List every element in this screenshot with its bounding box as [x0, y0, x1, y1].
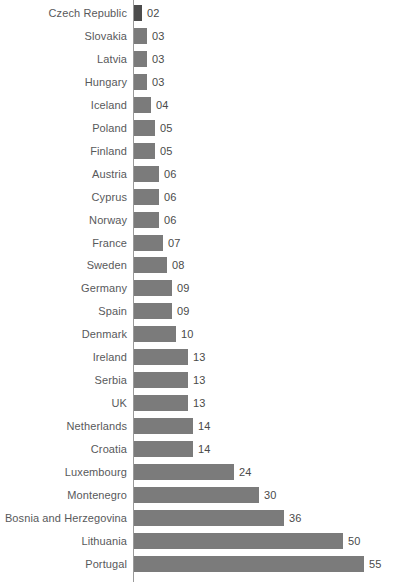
value-label: 06 [164, 190, 177, 203]
value-label: 06 [164, 213, 177, 226]
bar-row: Sweden08 [0, 257, 393, 273]
value-label: 03 [152, 75, 165, 88]
bar [134, 189, 159, 205]
bar [134, 303, 172, 319]
bar-row: Czech Republic02 [0, 5, 393, 21]
bar [134, 97, 151, 113]
category-label: Iceland [91, 98, 127, 111]
category-label: Latvia [97, 52, 127, 65]
bar [134, 5, 142, 21]
bar-row: Slovakia03 [0, 28, 393, 44]
category-label: Spain [98, 305, 127, 318]
category-label: Poland [92, 121, 127, 134]
bar-row: Spain09 [0, 303, 393, 319]
value-label: 02 [147, 7, 160, 20]
bar-row: Croatia14 [0, 441, 393, 457]
category-label: Sweden [87, 259, 127, 272]
category-label: Portugal [85, 557, 127, 570]
category-label: Serbia [95, 374, 127, 387]
category-label: Netherlands [67, 420, 127, 433]
category-label: Denmark [82, 328, 127, 341]
value-label: 13 [193, 351, 206, 364]
bar [134, 74, 147, 90]
bar-row: Netherlands14 [0, 418, 393, 434]
bar-row: Germany09 [0, 280, 393, 296]
category-label: France [92, 236, 127, 249]
value-label: 13 [193, 397, 206, 410]
bar-row: Serbia13 [0, 372, 393, 388]
category-label: Finland [90, 144, 127, 157]
bar-rows: Czech Republic02Slovakia03Latvia03Hungar… [0, 0, 393, 582]
bar-row: UK13 [0, 395, 393, 411]
value-label: 07 [168, 236, 181, 249]
value-label: 08 [172, 259, 185, 272]
bar [134, 556, 364, 572]
value-label: 36 [289, 511, 302, 524]
bar-row: Finland05 [0, 143, 393, 159]
bar [134, 464, 234, 480]
value-label: 05 [160, 121, 173, 134]
category-label: Austria [92, 167, 127, 180]
category-label: Czech Republic [49, 7, 127, 20]
category-label: Slovakia [85, 29, 127, 42]
bar-row: Ireland13 [0, 349, 393, 365]
value-label: 24 [239, 466, 252, 479]
bar [134, 395, 188, 411]
bar [134, 533, 343, 549]
value-label: 14 [198, 443, 211, 456]
value-label: 13 [193, 374, 206, 387]
bar [134, 349, 188, 365]
value-label: 09 [177, 282, 190, 295]
bar [134, 326, 176, 342]
bar-row: Luxembourg24 [0, 464, 393, 480]
category-label: Bosnia and Herzegovina [5, 511, 127, 524]
value-label: 05 [160, 144, 173, 157]
value-label: 14 [198, 420, 211, 433]
bar-row: France07 [0, 235, 393, 251]
bar [134, 28, 147, 44]
bar-row: Poland05 [0, 120, 393, 136]
bar [134, 487, 259, 503]
value-label: 06 [164, 167, 177, 180]
bar [134, 51, 147, 67]
bar [134, 143, 155, 159]
bar [134, 235, 163, 251]
category-label: Luxembourg [65, 466, 127, 479]
value-label: 55 [369, 557, 382, 570]
bar-row: Norway06 [0, 212, 393, 228]
category-label: Cyprus [92, 190, 127, 203]
bar [134, 280, 172, 296]
bar-row: Iceland04 [0, 97, 393, 113]
bar-row: Austria06 [0, 166, 393, 182]
bar-row: Denmark10 [0, 326, 393, 342]
bar-chart: Czech Republic02Slovakia03Latvia03Hungar… [0, 0, 393, 582]
bar-row: Portugal55 [0, 556, 393, 572]
bar [134, 372, 188, 388]
bar-row: Lithuania50 [0, 533, 393, 549]
bar [134, 120, 155, 136]
bar-row: Bosnia and Herzegovina36 [0, 510, 393, 526]
bar-row: Cyprus06 [0, 189, 393, 205]
value-label: 04 [156, 98, 169, 111]
bar [134, 510, 284, 526]
category-label: Lithuania [81, 534, 127, 547]
category-label: Montenegro [67, 488, 127, 501]
bar [134, 212, 159, 228]
value-label: 09 [177, 305, 190, 318]
bar [134, 441, 193, 457]
bar-row: Montenegro30 [0, 487, 393, 503]
category-label: Croatia [91, 443, 127, 456]
value-label: 50 [348, 534, 361, 547]
bar-row: Latvia03 [0, 51, 393, 67]
value-label: 30 [264, 488, 277, 501]
category-label: UK [112, 397, 127, 410]
category-label: Hungary [85, 75, 127, 88]
category-label: Ireland [93, 351, 127, 364]
bar-row: Hungary03 [0, 74, 393, 90]
value-label: 10 [181, 328, 194, 341]
bar [134, 166, 159, 182]
bar [134, 257, 167, 273]
category-label: Germany [81, 282, 127, 295]
category-label: Norway [89, 213, 127, 226]
value-label: 03 [152, 52, 165, 65]
